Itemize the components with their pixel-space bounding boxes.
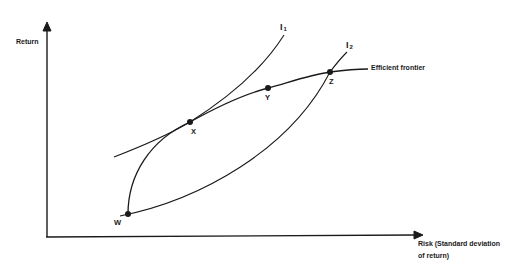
y-axis-label: Return: [16, 38, 39, 45]
indifference-curve-i2-label: I2: [346, 40, 353, 50]
point-x-marker: [187, 119, 193, 125]
indifference-curve-i1: [114, 35, 284, 157]
indifference-curve-i2: [120, 52, 347, 216]
point-w-label: W: [114, 218, 121, 227]
indifference-curve-i1-label: I1: [280, 22, 287, 32]
axes: [43, 22, 423, 239]
i2-letter: I: [346, 40, 349, 50]
x-axis-label-line1: Risk (Standard deviation: [418, 240, 500, 247]
i1-letter: I: [280, 22, 283, 32]
i2-subscript: 2: [350, 44, 353, 50]
efficient-frontier-label: Efficient frontier: [371, 64, 425, 71]
x-axis: [46, 235, 415, 237]
x-axis-label-line2: of return): [418, 252, 449, 259]
point-z-marker: [327, 69, 333, 75]
point-y-label: Y: [265, 93, 270, 102]
diagram-canvas: [0, 0, 523, 279]
point-x-label: X: [191, 127, 196, 136]
points: [125, 69, 333, 217]
x-axis-arrow-icon: [414, 231, 423, 239]
efficient-frontier-curve: [128, 69, 368, 214]
point-y-marker: [265, 85, 271, 91]
point-z-label: Z: [329, 77, 334, 86]
point-w-marker: [125, 211, 131, 217]
i1-subscript: 1: [284, 26, 287, 32]
y-axis-arrow-icon: [43, 22, 51, 31]
